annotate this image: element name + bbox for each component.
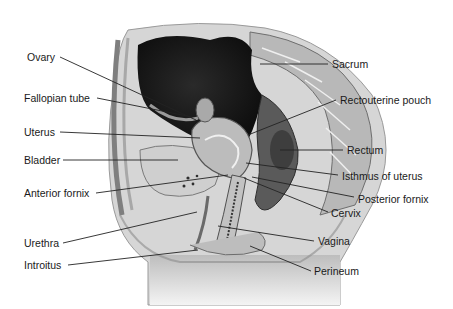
leader-line-fallopian-tube [97, 98, 192, 117]
leader-line-introitus [68, 250, 198, 265]
label-perineum: Perineum [314, 265, 359, 277]
label-fallopian-tube: Fallopian tube [24, 92, 90, 104]
label-cervix: Cervix [331, 207, 361, 219]
label-vagina: Vagina [318, 235, 350, 247]
label-anterior-fornix: Anterior fornix [24, 187, 89, 199]
leader-lines [0, 0, 453, 309]
leader-line-isthmus-of-uterus [246, 163, 338, 175]
leader-line-anterior-fornix [96, 175, 228, 193]
label-bladder: Bladder [24, 154, 60, 166]
label-isthmus-of-uterus: Isthmus of uterus [342, 170, 423, 182]
leader-line-perineum [250, 246, 311, 271]
leader-line-vagina [218, 226, 314, 241]
label-urethra: Urethra [24, 237, 59, 249]
leader-line-ovary [60, 57, 196, 120]
label-ovary: Ovary [27, 51, 55, 63]
leader-line-uterus [60, 132, 200, 138]
label-posterior-fornix: Posterior fornix [358, 193, 429, 205]
anatomy-diagram: Ovary Fallopian tube Uterus Bladder Ante… [0, 0, 453, 309]
leader-line-rectouterine-pouch [248, 100, 336, 135]
label-rectouterine-pouch: Rectouterine pouch [340, 94, 431, 106]
label-introitus: Introitus [24, 259, 61, 271]
label-sacrum: Sacrum [332, 58, 368, 70]
leader-line-urethra [63, 212, 197, 243]
leader-line-cervix [244, 178, 328, 212]
label-uterus: Uterus [24, 126, 55, 138]
label-rectum: Rectum [347, 144, 383, 156]
